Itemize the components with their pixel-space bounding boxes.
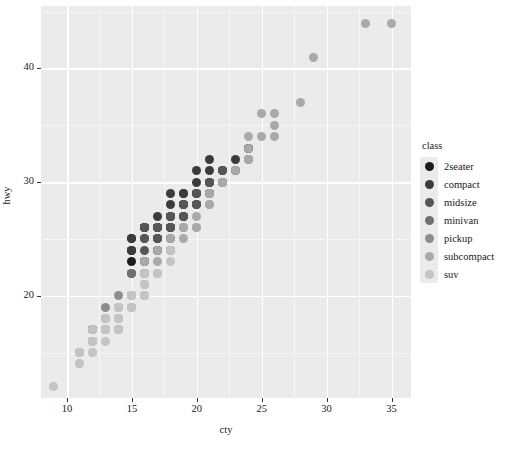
data-point	[179, 223, 188, 232]
legend-key-swatch	[420, 193, 438, 211]
y-tick-label: 20	[0, 289, 34, 300]
legend-dot-icon	[425, 252, 434, 261]
data-point	[244, 144, 253, 153]
gridline-minor-horizontal	[41, 239, 411, 240]
data-point	[75, 348, 84, 357]
legend-key-swatch	[420, 211, 438, 229]
legend-dot-icon	[425, 198, 434, 207]
legend-item-label: compact	[444, 179, 480, 190]
data-point	[140, 246, 149, 255]
legend: class 2seatercompactmidsizeminivanpickup…	[420, 140, 494, 283]
x-axis-title: cty	[41, 424, 411, 435]
data-point	[75, 359, 84, 368]
data-point	[101, 337, 110, 346]
y-tick-mark	[37, 182, 41, 183]
legend-item-midsize[interactable]: midsize	[420, 193, 494, 211]
gridline-minor-vertical	[359, 6, 360, 398]
legend-item-compact[interactable]: compact	[420, 175, 494, 193]
gridline-minor-vertical	[164, 6, 165, 398]
data-point	[231, 155, 240, 164]
data-point	[101, 314, 110, 323]
gridline-minor-horizontal	[41, 12, 411, 13]
legend-dot-icon	[425, 162, 434, 171]
gridline-minor-vertical	[229, 6, 230, 398]
legend-item-label: midsize	[444, 197, 477, 208]
gridline-major-vertical	[132, 6, 134, 398]
chart-root: 101520253035 203040 cty hwy class 2seate…	[0, 0, 505, 449]
data-point	[140, 223, 149, 232]
x-tick-mark	[392, 398, 393, 402]
gridline-minor-horizontal	[41, 125, 411, 126]
legend-item-2seater[interactable]: 2seater	[420, 157, 494, 175]
x-tick-mark	[132, 398, 133, 402]
data-point	[257, 132, 266, 141]
data-point	[270, 109, 279, 118]
data-point	[153, 257, 162, 266]
x-tick-label: 15	[112, 403, 152, 414]
data-point	[153, 212, 162, 221]
data-point	[231, 166, 240, 175]
legend-item-subcompact[interactable]: subcompact	[420, 247, 494, 265]
x-tick-mark	[67, 398, 68, 402]
data-point	[179, 200, 188, 209]
data-point	[49, 382, 58, 391]
legend-dot-icon	[425, 270, 434, 279]
legend-item-label: suv	[444, 269, 459, 280]
data-point	[205, 178, 214, 187]
data-point	[127, 246, 136, 255]
legend-dot-icon	[425, 216, 434, 225]
data-point	[101, 303, 110, 312]
data-point	[114, 314, 123, 323]
data-point	[218, 166, 227, 175]
data-point	[127, 269, 136, 278]
gridline-major-vertical	[392, 6, 394, 398]
data-point	[192, 200, 201, 209]
legend-item-suv[interactable]: suv	[420, 265, 494, 283]
data-point	[218, 178, 227, 187]
gridline-major-vertical	[67, 6, 69, 398]
data-point	[192, 212, 201, 221]
legend-item-minivan[interactable]: minivan	[420, 211, 494, 229]
data-point	[387, 19, 396, 28]
x-tick-label: 30	[307, 403, 347, 414]
data-point	[114, 325, 123, 334]
data-point	[101, 325, 110, 334]
y-tick-mark	[37, 68, 41, 69]
legend-item-label: minivan	[444, 215, 478, 226]
data-point	[140, 291, 149, 300]
data-point	[153, 234, 162, 243]
data-point	[88, 337, 97, 346]
legend-items: 2seatercompactmidsizeminivanpickupsubcom…	[420, 157, 494, 283]
legend-dot-icon	[425, 180, 434, 189]
data-point	[114, 291, 123, 300]
data-point	[257, 109, 266, 118]
data-point	[270, 121, 279, 130]
data-point	[205, 189, 214, 198]
data-point	[244, 132, 253, 141]
y-tick-label: 40	[0, 61, 34, 72]
data-point	[153, 269, 162, 278]
data-point	[140, 269, 149, 278]
legend-key-swatch	[420, 265, 438, 283]
legend-dot-icon	[425, 234, 434, 243]
data-point	[88, 325, 97, 334]
data-point	[309, 53, 318, 62]
legend-item-label: 2seater	[444, 161, 474, 172]
data-point	[192, 178, 201, 187]
data-point	[166, 246, 175, 255]
x-tick-label: 25	[242, 403, 282, 414]
data-point	[179, 212, 188, 221]
data-point	[166, 189, 175, 198]
gridline-minor-vertical	[294, 6, 295, 398]
data-point	[296, 98, 305, 107]
legend-key-swatch	[420, 229, 438, 247]
legend-key-swatch	[420, 175, 438, 193]
legend-item-label: pickup	[444, 233, 473, 244]
data-point	[140, 257, 149, 266]
data-point	[166, 223, 175, 232]
x-tick-label: 35	[372, 403, 412, 414]
data-point	[205, 166, 214, 175]
legend-item-pickup[interactable]: pickup	[420, 229, 494, 247]
x-tick-mark	[327, 398, 328, 402]
data-point	[361, 19, 370, 28]
